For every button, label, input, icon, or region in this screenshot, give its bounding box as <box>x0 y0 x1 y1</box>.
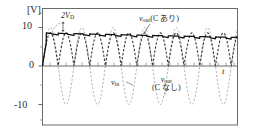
x-axis-label-t: t <box>222 66 225 76</box>
vout-with-c-label: vout(C あり) <box>139 15 179 23</box>
y-tick-label-10: 10 <box>22 20 32 31</box>
peak-drop-subscript: D <box>70 14 74 20</box>
vin-subscript: in <box>115 81 120 87</box>
vin-label: vin <box>111 79 119 87</box>
peak-drop-text: 2V <box>61 11 70 20</box>
y-tick-label-minus-10: -10 <box>14 99 27 110</box>
rectifier-waveform-figure <box>0 0 254 137</box>
vout-no-c-paren: (C なし) <box>152 83 181 92</box>
peak-drop-annotation: 2VD <box>61 12 74 20</box>
vout-no-c-label: vout(C なし) <box>152 76 181 93</box>
y-major-ticks <box>39 28 43 105</box>
vout-with-c-paren: (C あり) <box>150 14 179 23</box>
y-axis-unit-label: [V] <box>27 4 41 15</box>
y-tick-label-0: 0 <box>29 59 34 70</box>
plot-frame <box>43 9 238 126</box>
